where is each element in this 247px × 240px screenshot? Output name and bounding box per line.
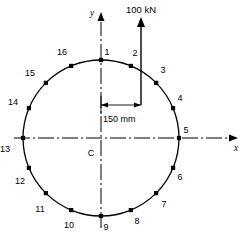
bolt-node-label: 16 [57,47,67,57]
bolt-node-label: 9 [103,222,108,232]
load-magnitude-label: 100 kN [126,4,156,15]
bolt-node-label: 10 [64,220,74,230]
bolt-node [21,136,25,140]
bolt-node [27,166,31,170]
y-axis-label: y [89,8,95,18]
bolt-node-labels: 12345678910111213141516 [0,47,189,232]
centre-lines [14,22,232,228]
dimension-label: 150 mm [103,114,136,124]
y-axis-arrowhead [98,12,105,21]
bolt-node-label: 8 [134,216,139,226]
load-arrow-group [137,17,145,105]
dimension-150mm [101,96,141,114]
bolt-node [177,136,181,140]
bolt-node [69,64,73,68]
bolt-node [171,106,175,110]
bolt-node [44,191,48,195]
bolt-node [27,106,31,110]
bolt-node-label: 3 [160,65,165,75]
bolt-node-label: 6 [177,172,182,182]
bolt-node [154,81,158,85]
bolt-node [171,166,175,170]
bolt-node-label: 11 [35,204,44,214]
bolt-node-label: 1 [104,47,109,57]
bolt-node [99,58,103,62]
bolt-node-label: 5 [183,125,188,135]
bolt-node [44,81,48,85]
bolt-node-label: 2 [132,48,137,58]
bolt-node [99,214,103,218]
x-axis-arrowhead [229,135,238,142]
bolt-node-label: 12 [15,176,25,186]
bolt-node-label: 14 [8,97,18,107]
centroid-label: C [88,148,95,158]
bolt-node-label: 4 [177,93,182,103]
bolt-node [129,208,133,212]
dimension-arrowhead-right [134,103,141,108]
bolt-node-label: 7 [161,199,166,209]
bolt-node-label: 13 [0,144,10,154]
bolt-node [154,191,158,195]
load-arrowhead [137,17,145,27]
x-axis-label: x [233,143,239,153]
dimension-arrowhead-left [101,103,108,108]
diagram-canvas: 12345678910111213141516 x y 100 kN 150 m… [0,0,247,240]
bolt-node [129,64,133,68]
bolt-group-diagram: 12345678910111213141516 x y 100 kN 150 m… [0,0,247,240]
bolt-node-label: 15 [25,68,35,78]
bolt-node [69,208,73,212]
